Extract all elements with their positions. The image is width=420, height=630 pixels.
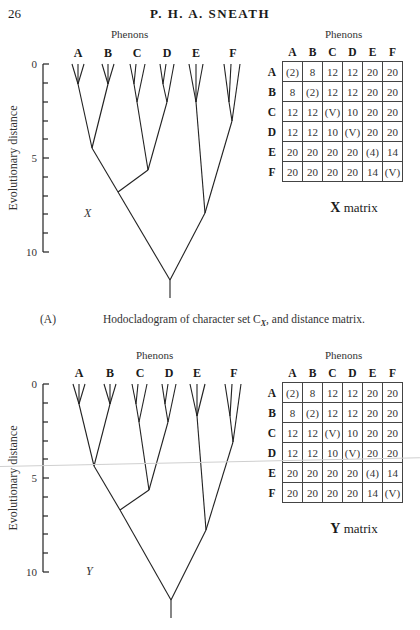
matrix-cell: (V) (323, 423, 343, 443)
matrix-cell: 14 (383, 142, 403, 162)
matrix-cell: 20 (363, 403, 383, 423)
matrix-title-x: Phenons (325, 28, 362, 40)
dendrogram-x: A B C D E F 0 5 10 Evolutionary distance… (0, 0, 250, 300)
matrix-col-header: C (323, 42, 343, 62)
dendrogram-y: A B C D E F 0 5 10 Evolutionary distance… (0, 318, 250, 628)
matrix-cell: 20 (303, 463, 323, 483)
leaf-label-e: E (192, 46, 200, 60)
matrix-cell: 12 (303, 102, 323, 122)
matrix-cell: 20 (343, 162, 363, 182)
matrix-row: E 20 20 20 20 (4) 14 (262, 463, 403, 483)
matrix-cell: 10 (343, 423, 363, 443)
matrix-col-header: E (363, 363, 383, 383)
matrix-cell: (4) (363, 142, 383, 162)
matrix-cell: 20 (343, 463, 363, 483)
matrix-cell: (2) (303, 82, 323, 102)
matrix-cell: 20 (323, 483, 343, 503)
matrix-cell: 20 (383, 423, 403, 443)
matrix-row: A (2) 8 12 12 20 20 (262, 383, 403, 403)
leaf-label-d: D (165, 366, 174, 380)
leaf-label-a: A (75, 366, 84, 380)
matrix-row-header: A (262, 383, 283, 403)
tick-0: 0 (32, 58, 38, 70)
matrix-cell: (2) (283, 62, 303, 82)
matrix-cell: 8 (303, 62, 323, 82)
matrix-label-x: X matrix (289, 200, 419, 216)
matrix-cell: 20 (383, 62, 403, 82)
matrix-cell: 20 (303, 162, 323, 182)
matrix-col-header: D (343, 363, 363, 383)
matrix-cell: 20 (363, 383, 383, 403)
matrix-cell: 14 (383, 463, 403, 483)
matrix-row-header: C (262, 423, 283, 443)
matrix-cell: 20 (283, 463, 303, 483)
matrix-cell: 14 (363, 483, 383, 503)
leaf-label-c: C (133, 46, 142, 60)
tree-letter-y: Y (86, 564, 94, 578)
matrix-cell: 20 (303, 142, 323, 162)
tick-10: 10 (26, 566, 38, 578)
matrix-cell: (2) (303, 403, 323, 423)
matrix-cell: 12 (323, 82, 343, 102)
matrix-cell: 14 (363, 162, 383, 182)
matrix-cell: 20 (363, 62, 383, 82)
matrix-cell: 20 (383, 122, 403, 142)
matrix-cell: 12 (343, 62, 363, 82)
matrix-cell: 12 (283, 102, 303, 122)
matrix-cell: 10 (343, 102, 363, 122)
matrix-cell: 12 (323, 383, 343, 403)
matrix-cell: 20 (363, 423, 383, 443)
matrix-cell: 20 (363, 122, 383, 142)
matrix-cell: 20 (383, 102, 403, 122)
matrix-row: C 12 12 (V) 10 20 20 (262, 423, 403, 443)
matrix-row-header: B (262, 82, 283, 102)
matrix-cell: 12 (343, 383, 363, 403)
y-axis (43, 64, 49, 252)
matrix-cell: 12 (303, 423, 323, 443)
axis-label-y: Evolutionary distance (6, 426, 20, 531)
distance-matrix-x: A B C D E F A (2) 8 12 12 20 20 B 8 (2) … (262, 42, 403, 182)
tree-branches-y (73, 384, 241, 618)
matrix-row: C 12 12 (V) 10 20 20 (262, 102, 403, 122)
matrix-label-y: Y matrix (289, 521, 419, 537)
leaf-label-a: A (74, 46, 83, 60)
matrix-cell: 20 (343, 142, 363, 162)
matrix-cell: 20 (323, 142, 343, 162)
matrix-cell: 20 (363, 443, 383, 463)
matrix-cell: 8 (283, 403, 303, 423)
matrix-row-header: F (262, 162, 283, 182)
matrix-row: A (2) 8 12 12 20 20 (262, 62, 403, 82)
matrix-cell: 20 (363, 102, 383, 122)
matrix-cell: 20 (283, 142, 303, 162)
matrix-row-header: F (262, 483, 283, 503)
leaf-label-d: D (163, 46, 172, 60)
matrix-cell: 12 (303, 122, 323, 142)
matrix-col-header: A (283, 42, 303, 62)
matrix-row: B 8 (2) 12 12 20 20 (262, 82, 403, 102)
tick-10: 10 (26, 246, 38, 258)
matrix-cell: 12 (343, 82, 363, 102)
leaf-label-c: C (136, 366, 145, 380)
y-axis (43, 384, 49, 572)
leaf-label-b: B (104, 46, 112, 60)
matrix-cell: 12 (323, 403, 343, 423)
matrix-cell: (V) (383, 483, 403, 503)
matrix-cell: 12 (323, 62, 343, 82)
matrix-cell: 20 (283, 483, 303, 503)
matrix-col-header: D (343, 42, 363, 62)
matrix-cell: 12 (343, 403, 363, 423)
matrix-cell: 8 (283, 82, 303, 102)
tick-0: 0 (32, 378, 38, 390)
tick-5: 5 (32, 472, 38, 484)
matrix-row-header: D (262, 122, 283, 142)
leaf-label-e: E (193, 366, 201, 380)
distance-matrix-y: A B C D E F A (2) 8 12 12 20 20 B 8 (2) … (262, 363, 403, 503)
matrix-row-header: E (262, 463, 283, 483)
matrix-cell: 20 (323, 162, 343, 182)
matrix-cell: 20 (283, 162, 303, 182)
tree-branches-x (72, 64, 240, 298)
axis-label-x: Evolutionary distance (6, 106, 20, 211)
matrix-cell: 20 (323, 463, 343, 483)
matrix-cell: 8 (303, 383, 323, 403)
matrix-col-header: B (303, 42, 323, 62)
